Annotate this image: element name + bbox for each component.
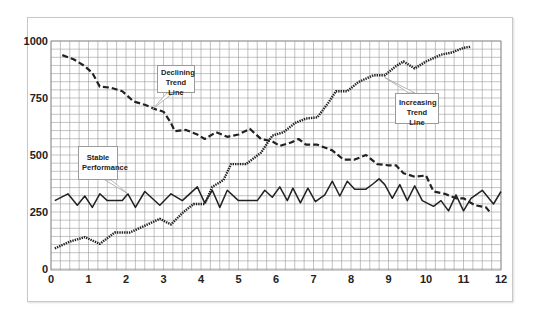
annotation-line2: Performance [82,163,114,173]
annotation-line1: Stable [82,153,114,163]
x-tick-label: 7 [310,273,316,285]
annotation-line1: Increasing [399,98,435,108]
annotation-line1: Declining [161,68,191,78]
series-stable-performance [55,179,501,211]
x-tick-label: 11 [458,273,470,285]
x-tick-label: 12 [495,273,507,285]
annotation-line2: Trend Line [399,108,435,128]
x-tick-label: 5 [235,273,241,285]
x-tick-label: 6 [273,273,279,285]
annotation-line2: Trend Line [161,78,191,98]
annotation-declining-trend: Declining Trend Line [157,65,195,93]
x-tick-label: 1 [85,273,91,285]
annotation-increasing-trend: Increasing Trend Line [395,93,439,124]
y-axis-ticks: 02505007501000 [24,35,48,275]
annotation-leaders [105,77,415,193]
x-tick-label: 2 [123,273,129,285]
x-tick-label: 0 [48,273,54,285]
y-tick-label: 1000 [24,35,48,47]
y-tick-label: 750 [30,92,48,104]
y-tick-label: 250 [30,206,48,218]
annotation-stable-performance: Stable Performance [78,146,118,180]
grid [51,41,501,270]
x-tick-label: 8 [348,273,354,285]
x-tick-label: 3 [160,273,166,285]
x-tick-label: 4 [198,273,205,285]
x-axis-ticks: 0123456789101112 [48,273,507,285]
x-tick-label: 10 [420,273,432,285]
series-lines [55,47,501,249]
x-tick-label: 9 [385,273,391,285]
y-tick-label: 500 [30,149,48,161]
